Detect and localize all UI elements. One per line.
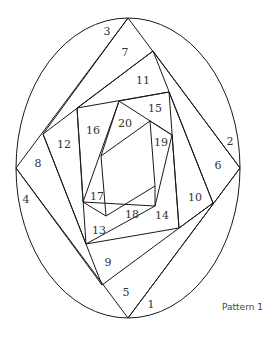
segment-labels: 1234567891011121314151617181920 — [23, 25, 234, 311]
line — [101, 101, 119, 156]
layer-2 — [43, 51, 213, 285]
segment-label-8: 8 — [35, 157, 42, 170]
line — [179, 203, 213, 228]
pattern-caption: Pattern 1 — [222, 302, 263, 312]
line — [150, 121, 172, 135]
line — [43, 18, 128, 134]
layer-5 — [101, 121, 155, 216]
diamond-1 — [16, 18, 240, 318]
segment-label-6: 6 — [215, 159, 222, 172]
segment-label-2: 2 — [227, 135, 234, 148]
segment-label-16: 16 — [86, 124, 100, 137]
segment-label-9: 9 — [105, 256, 112, 269]
segment-label-15: 15 — [148, 102, 162, 115]
segment-label-19: 19 — [154, 136, 168, 149]
segment-label-14: 14 — [155, 209, 169, 222]
line — [77, 108, 83, 202]
segment-label-11: 11 — [136, 74, 150, 87]
iris-pattern-diagram: 1234567891011121314151617181920 — [0, 0, 267, 338]
segment-label-10: 10 — [188, 191, 202, 204]
line — [153, 51, 240, 168]
segment-label-17: 17 — [90, 190, 104, 203]
segment-label-3: 3 — [104, 25, 111, 38]
segment-label-1: 1 — [148, 298, 155, 311]
line — [119, 92, 169, 101]
segment-label-5: 5 — [123, 286, 130, 299]
segment-label-7: 7 — [122, 46, 129, 59]
outer-oval — [16, 18, 240, 318]
line — [128, 168, 240, 318]
segment-label-4: 4 — [23, 193, 30, 206]
segment-label-18: 18 — [125, 208, 139, 221]
line — [83, 202, 106, 216]
line — [172, 135, 179, 228]
segment-label-20: 20 — [118, 117, 132, 130]
segment-label-12: 12 — [57, 138, 71, 151]
segment-label-13: 13 — [92, 224, 106, 237]
